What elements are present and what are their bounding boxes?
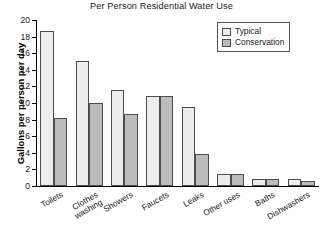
bar-conservation	[231, 174, 245, 186]
bar-group	[288, 20, 315, 186]
y-tick-mark	[32, 120, 36, 121]
y-tick-label: 2	[8, 165, 30, 174]
y-tick-label: 4	[8, 149, 30, 158]
y-tick-mark	[32, 70, 36, 71]
bar-conservation	[160, 96, 174, 186]
y-tick-label: 20	[8, 16, 30, 25]
chart-title: Per Person Residential Water Use	[0, 1, 323, 11]
y-tick-label: 12	[8, 82, 30, 91]
y-tick-mark	[32, 186, 36, 187]
bar-typical	[111, 90, 125, 186]
bar-typical	[252, 179, 266, 186]
bar-conservation	[266, 179, 280, 186]
bar-typical	[146, 96, 160, 186]
y-tick-mark	[32, 169, 36, 170]
bar-conservation	[89, 103, 103, 186]
bar-typical	[76, 61, 90, 186]
y-tick-mark	[32, 86, 36, 87]
bar-group	[76, 20, 103, 186]
y-tick-mark	[32, 53, 36, 54]
bar-conservation	[54, 118, 68, 186]
legend-label: Typical	[235, 27, 261, 36]
y-tick-label: 10	[8, 99, 30, 108]
y-tick-mark	[32, 37, 36, 38]
chart-legend: TypicalConservation	[217, 22, 290, 52]
y-tick-mark	[32, 103, 36, 104]
legend-swatch-icon	[222, 28, 231, 36]
y-tick-label: 0	[8, 182, 30, 191]
bar-group	[146, 20, 173, 186]
y-tick-mark	[32, 153, 36, 154]
x-axis-line	[36, 186, 319, 187]
y-tick-mark	[32, 136, 36, 137]
legend-item: Typical	[222, 26, 284, 37]
y-tick-label: 14	[8, 66, 30, 75]
y-tick-label: 16	[8, 49, 30, 58]
bar-group	[40, 20, 67, 186]
bar-group	[111, 20, 138, 186]
y-axis-line	[36, 20, 37, 186]
chart-container: Per Person Residential Water Use Gallons…	[0, 0, 323, 239]
bar-conservation	[195, 154, 209, 186]
bar-typical	[288, 179, 302, 186]
y-tick-label: 8	[8, 116, 30, 125]
bar-conservation	[124, 114, 138, 186]
legend-item: Conservation	[222, 37, 284, 48]
y-tick-label: 18	[8, 33, 30, 42]
bar-typical	[217, 174, 231, 186]
y-tick-label: 6	[8, 132, 30, 141]
bar-typical	[182, 107, 196, 186]
bar-conservation	[301, 181, 315, 186]
y-tick-mark	[32, 20, 36, 21]
bar-typical	[40, 31, 54, 186]
legend-swatch-icon	[222, 39, 231, 47]
legend-label: Conservation	[235, 38, 284, 47]
bar-group	[182, 20, 209, 186]
